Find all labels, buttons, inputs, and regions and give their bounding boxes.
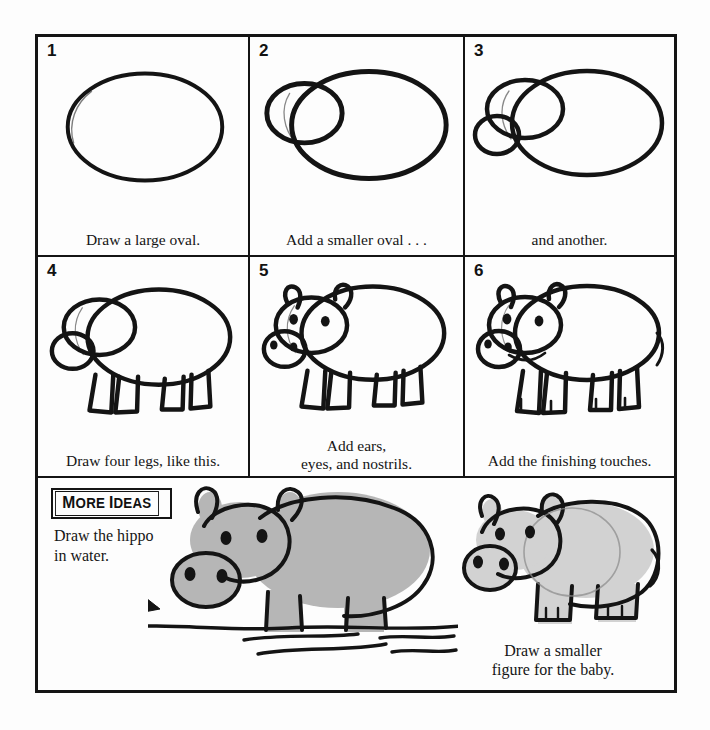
more-ideas-panel: MORE IDEAS Draw the hippo in water. [38, 478, 674, 690]
step-caption-4: Draw four legs, like this. [42, 452, 244, 470]
tutorial-frame: 1 Draw a large oval. 2 [35, 34, 677, 693]
step-art-5 [250, 271, 463, 429]
drawing-tutorial-page: 1 Draw a large oval. 2 [0, 0, 710, 730]
step-panel-2: 2 Add a smaller oval . . . [250, 37, 465, 257]
step-art-6 [465, 271, 674, 429]
more-ideas-baby-caption: Draw a smaller figure for the baby. [438, 641, 668, 679]
step-art-4 [38, 271, 248, 429]
step-panel-5: 5 [250, 257, 465, 478]
badge-letter-m: M [62, 493, 75, 512]
badge-text-deas: DEAS [113, 495, 151, 511]
more-ideas-water-caption: Draw the hippo in water. [54, 526, 154, 565]
step-panel-4: 4 [38, 257, 250, 478]
step-caption-6: Add the finishing touches. [469, 452, 670, 470]
more-ideas-badge-label: MORE IDEAS [55, 491, 159, 516]
step-art-3 [465, 51, 674, 209]
step-panel-1: 1 Draw a large oval. [38, 37, 250, 257]
step-art-2 [250, 51, 463, 209]
step-caption-3: and another. [469, 231, 670, 249]
badge-text-ore: ORE [76, 495, 109, 511]
step-caption-1: Draw a large oval. [42, 231, 244, 249]
step-art-1 [38, 51, 248, 209]
baby-hippo-illustration [446, 486, 671, 641]
step-caption-5: Add ears, eyes, and nostrils. [254, 437, 459, 473]
hippo-in-water-illustration [148, 478, 458, 678]
step-panel-6: 6 [465, 257, 674, 478]
step-caption-2: Add a smaller oval . . . [254, 231, 459, 249]
step-panel-3: 3 and another. [465, 37, 674, 257]
